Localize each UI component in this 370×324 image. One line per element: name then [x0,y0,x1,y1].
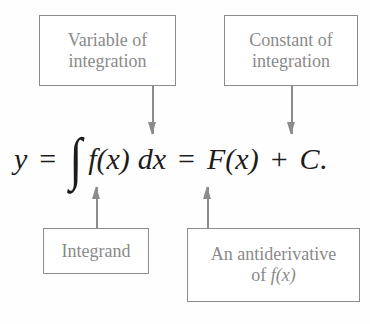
equation-plus: + [271,142,288,176]
arrow-down-icon [291,86,293,134]
equation-integrand: f(x) [88,142,130,176]
integral-sign-icon: ∫ [70,136,83,182]
label-variable-of-integration-line1: Variable of [68,30,147,51]
equation-lhs: y [14,142,27,176]
equation-constant: C [300,142,320,176]
label-antiderivative-math: f(x) [271,265,296,285]
integral-equation: y = ∫ f(x) dx = F(x) + C . [14,136,327,182]
label-constant-of-integration: Constant of integration [224,15,358,86]
label-integrand-text: Integrand [62,241,131,262]
label-antiderivative-prefix: of [251,265,271,285]
integral-notation-diagram: Variable of integration Constant of inte… [0,0,370,324]
label-constant-of-integration-line1: Constant of [249,30,333,51]
equation-equals: = [178,142,195,176]
arrow-up-icon [96,187,98,228]
equation-equals: = [39,142,56,176]
label-integrand: Integrand [43,228,149,274]
equation-differential: dx [138,142,166,176]
arrow-down-icon [152,86,154,134]
arrow-up-icon [207,187,209,228]
label-variable-of-integration: Variable of integration [39,15,176,86]
label-constant-of-integration-line2: integration [252,51,330,72]
label-variable-of-integration-line2: integration [69,51,147,72]
label-antiderivative: An antiderivative of f(x) [187,228,360,302]
label-antiderivative-line2: of f(x) [251,265,295,286]
label-antiderivative-line1: An antiderivative [211,244,336,265]
equation-antiderivative: F(x) [207,142,259,176]
equation-period: . [320,142,328,176]
